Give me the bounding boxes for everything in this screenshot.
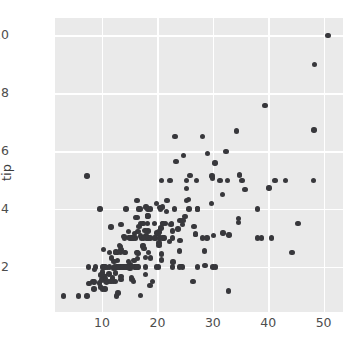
data-point — [118, 244, 123, 249]
data-point — [195, 264, 200, 269]
data-point — [170, 228, 175, 233]
data-point — [266, 185, 271, 190]
x-tick-label: 20 — [150, 317, 166, 330]
data-point — [143, 272, 148, 277]
data-point — [84, 173, 89, 178]
data-point — [131, 279, 136, 284]
data-point — [170, 264, 175, 269]
data-point — [91, 286, 96, 291]
data-point — [226, 288, 231, 293]
data-point — [135, 256, 140, 261]
data-point — [211, 233, 216, 238]
data-point — [217, 178, 222, 183]
data-point — [239, 178, 244, 183]
data-point — [181, 153, 186, 158]
data-point — [164, 209, 169, 214]
data-point — [202, 248, 207, 253]
data-point — [209, 173, 214, 178]
data-point — [225, 178, 230, 183]
data-point — [204, 235, 209, 240]
data-point — [123, 206, 128, 211]
y-tick-label: 6 — [1, 145, 9, 158]
gridline-horizontal — [55, 93, 343, 94]
y-axis-label: tip — [0, 164, 14, 181]
data-point — [148, 255, 153, 260]
data-point — [92, 267, 97, 272]
x-tick-label: 40 — [260, 317, 276, 330]
data-point — [205, 151, 210, 156]
data-point — [191, 224, 196, 229]
data-point — [173, 159, 178, 164]
data-point — [184, 186, 189, 191]
x-tick-label: 30 — [205, 317, 221, 330]
data-point — [289, 250, 294, 255]
data-point — [154, 264, 159, 269]
data-point — [212, 160, 217, 165]
data-point — [262, 103, 267, 108]
y-tick-label: 10 — [0, 29, 9, 42]
data-point — [242, 187, 247, 192]
data-point — [295, 221, 300, 226]
data-point — [138, 293, 143, 298]
data-point — [202, 263, 207, 268]
data-point — [182, 214, 187, 219]
data-point — [269, 235, 274, 240]
data-point — [159, 251, 164, 256]
data-point — [134, 250, 139, 255]
data-point — [86, 264, 91, 269]
data-point — [157, 235, 162, 240]
data-point — [126, 229, 131, 234]
data-point — [158, 206, 163, 211]
data-point — [180, 222, 185, 227]
data-point — [108, 224, 113, 229]
data-point — [325, 33, 330, 38]
data-point — [87, 281, 92, 286]
data-point — [177, 238, 182, 243]
data-point — [111, 259, 116, 264]
x-tick-label: 10 — [94, 317, 110, 330]
data-point — [190, 279, 195, 284]
data-point — [184, 178, 189, 183]
data-point — [118, 277, 123, 282]
data-point — [172, 206, 177, 211]
data-point — [167, 178, 172, 183]
data-point — [200, 235, 205, 240]
data-point — [145, 221, 150, 226]
data-point — [220, 192, 225, 197]
data-point — [255, 206, 260, 211]
scatter-plot-figure: 246810 1020304050 tip — [0, 0, 358, 353]
data-point — [97, 206, 102, 211]
data-point — [61, 293, 66, 298]
data-point — [135, 229, 140, 234]
data-point — [187, 173, 192, 178]
data-point — [226, 232, 231, 237]
data-point — [186, 206, 191, 211]
x-tick-label: 50 — [316, 317, 332, 330]
data-point — [126, 259, 131, 264]
gridline-horizontal — [55, 35, 343, 36]
data-point — [159, 178, 164, 183]
y-tick-label: 2 — [1, 261, 9, 274]
data-point — [193, 231, 198, 236]
data-point — [76, 293, 81, 298]
data-point — [259, 235, 264, 240]
data-point — [283, 178, 288, 183]
data-point — [122, 235, 127, 240]
data-point — [210, 264, 215, 269]
data-point — [101, 247, 106, 252]
data-point — [167, 239, 172, 244]
data-point — [84, 293, 89, 298]
data-point — [145, 228, 150, 233]
gridline-horizontal — [55, 151, 343, 152]
data-point — [175, 226, 180, 231]
data-point — [223, 149, 228, 154]
data-point — [194, 178, 199, 183]
data-point — [172, 134, 177, 139]
data-point — [104, 280, 109, 285]
data-point — [118, 222, 123, 227]
data-point — [148, 206, 153, 211]
data-point — [200, 134, 205, 139]
data-point — [100, 286, 105, 291]
data-point — [272, 178, 277, 183]
data-point — [124, 264, 129, 269]
